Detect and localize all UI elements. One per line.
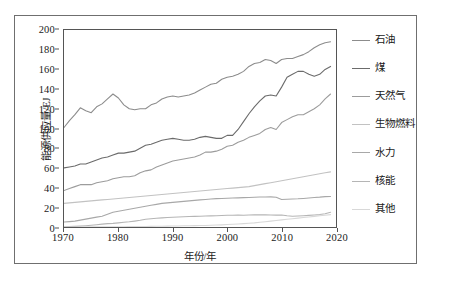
legend-line-swatch [352,209,370,210]
x-tick-label: 1970 [52,232,74,243]
legend-line-swatch [352,152,370,153]
series-line [64,42,331,128]
y-axis-ticks: 020406080100120140160180200 [14,29,59,228]
y-tick-mark [55,168,59,169]
series-line [64,212,331,227]
y-tick-label: 20 [44,203,55,214]
legend-item-label: 石油 [375,35,395,46]
plot-lines [64,30,336,227]
legend-item-0[interactable]: 石油 [352,33,395,47]
y-tick-label: 60 [44,163,55,174]
x-tick-mark [118,228,119,232]
x-tick-mark [227,228,228,232]
legend-item-label: 生物燃料 [375,119,415,130]
legend-line-swatch [352,96,370,97]
legend-line-swatch [352,40,370,41]
y-tick-mark [55,88,59,89]
y-tick-label: 180 [39,43,55,54]
y-tick-label: 160 [39,63,55,74]
x-tick-label: 2000 [216,232,238,243]
legend-line-swatch [352,124,370,125]
x-tick-label: 2010 [271,232,293,243]
y-tick-label: 120 [39,103,55,114]
legend-item-4[interactable]: 水力 [352,146,395,160]
legend-item-label: 核能 [375,176,395,187]
y-tick-mark [55,208,59,209]
x-tick-mark [337,228,338,232]
y-tick-mark [55,68,59,69]
legend-item-1[interactable]: 煤 [352,61,385,75]
y-tick-label: 40 [44,183,55,194]
series-line [64,196,331,222]
legend-item-3[interactable]: 生物燃料 [352,118,415,132]
legend-line-swatch [352,68,370,69]
legend-item-label: 水力 [375,148,395,159]
x-tick-mark [282,228,283,232]
plot-area [63,29,337,228]
y-tick-mark [55,29,59,30]
y-tick-mark [55,188,59,189]
x-tick-mark [173,228,174,232]
x-axis-title: 年份/年 [63,248,337,263]
chart-legend: 石油煤天然气生物燃料水力核能其他 [352,33,414,233]
y-tick-mark [55,48,59,49]
chart-figure: 能源供应量/EJ 020406080100120140160180200 197… [0,0,450,294]
y-tick-label: 100 [39,123,55,134]
x-tick-mark [63,228,64,232]
x-tick-label: 1980 [107,232,129,243]
legend-item-label: 其他 [375,204,395,215]
legend-item-6[interactable]: 其他 [352,202,395,216]
y-tick-label: 200 [39,24,55,35]
y-tick-mark [55,128,59,129]
y-tick-mark [55,228,59,229]
series-line [64,94,331,191]
y-tick-mark [55,148,59,149]
legend-item-label: 煤 [375,63,385,74]
legend-item-label: 天然气 [375,91,405,102]
legend-item-2[interactable]: 天然气 [352,89,405,103]
y-tick-label: 140 [39,83,55,94]
y-tick-label: 80 [44,143,55,154]
x-tick-label: 2020 [326,232,348,243]
x-tick-label: 1990 [162,232,184,243]
legend-item-5[interactable]: 核能 [352,174,395,188]
y-tick-mark [55,108,59,109]
legend-line-swatch [352,181,370,182]
